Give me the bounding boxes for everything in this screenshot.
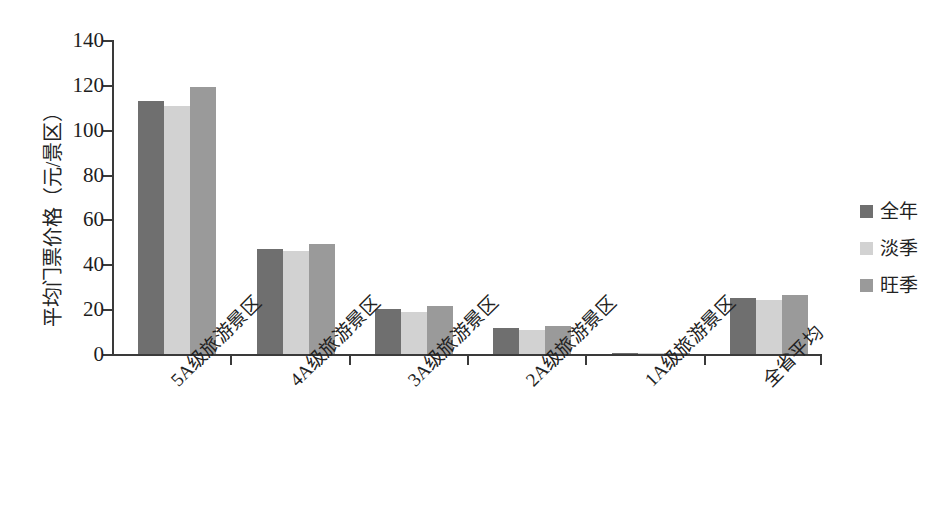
legend-item-label: 淡季 — [880, 239, 918, 258]
legend-item-label: 旺季 — [880, 276, 918, 295]
y-axis-line — [112, 40, 114, 356]
y-tick-mark — [103, 309, 112, 311]
y-tick-label: 60 — [83, 209, 104, 230]
y-axis-title: 平均门票价格（元/景区） — [37, 60, 66, 370]
y-tick-mark — [103, 264, 112, 266]
y-tick-mark — [103, 175, 112, 177]
y-tick-label: 0 — [94, 344, 105, 365]
bar — [756, 300, 782, 354]
bar — [138, 101, 164, 354]
legend-swatch-icon — [860, 205, 873, 218]
bar — [375, 309, 401, 354]
bar-group-bars — [375, 40, 453, 354]
x-tick-mark — [230, 356, 232, 365]
bar-group-bars — [493, 40, 571, 354]
y-tick-mark — [103, 130, 112, 132]
bar — [283, 251, 309, 354]
bar-group — [257, 40, 335, 354]
legend-swatch-icon — [860, 279, 873, 292]
legend-item[interactable]: 旺季 — [860, 276, 918, 295]
bar-group — [612, 40, 690, 354]
bar — [493, 328, 519, 354]
y-tick-mark — [103, 219, 112, 221]
legend-swatch-icon — [860, 242, 873, 255]
x-tick-mark — [704, 356, 706, 365]
legend-item-label: 全年 — [880, 202, 918, 221]
bar-group — [138, 40, 216, 354]
y-tick-label: 20 — [83, 299, 104, 320]
x-tick-mark — [349, 356, 351, 365]
bar-group-bars — [257, 40, 335, 354]
legend-item[interactable]: 全年 — [860, 202, 918, 221]
bar-group — [375, 40, 453, 354]
y-tick-mark — [103, 354, 112, 356]
bar — [190, 87, 216, 354]
y-tick-label: 80 — [83, 164, 104, 185]
bar-group-bars — [612, 40, 690, 354]
bar-chart: 平均门票价格（元/景区） 020406080100120140 5A级旅游景区4… — [0, 0, 940, 517]
x-tick-mark — [820, 356, 822, 365]
bar-group — [493, 40, 571, 354]
bar — [612, 353, 638, 354]
bar — [164, 106, 190, 354]
legend-item[interactable]: 淡季 — [860, 239, 918, 258]
bar-group-bars — [138, 40, 216, 354]
y-tick-label: 120 — [73, 74, 105, 95]
x-tick-mark — [467, 356, 469, 365]
y-tick-mark — [103, 40, 112, 42]
y-tick-mark — [103, 85, 112, 87]
y-tick-label: 40 — [83, 254, 104, 275]
y-tick-label: 140 — [73, 30, 105, 51]
y-tick-label: 100 — [73, 119, 105, 140]
x-tick-mark — [585, 356, 587, 365]
bar-group-bars — [730, 40, 808, 354]
chart-legend: 全年淡季旺季 — [860, 202, 918, 295]
bar-group — [730, 40, 808, 354]
